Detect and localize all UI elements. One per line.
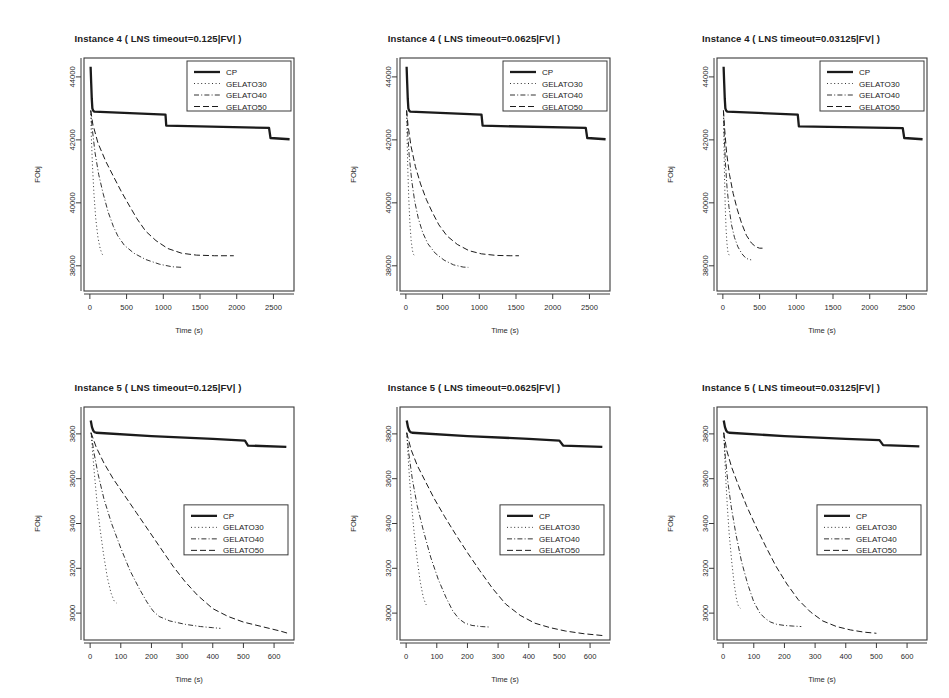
plot-area: 010020030040050060030003200340036003800T… [633, 349, 949, 698]
x-tick-label: 300 [492, 652, 505, 661]
legend-label-gelato50: GELATO50 [223, 546, 264, 555]
y-tick-label: 44000 [68, 66, 77, 87]
x-tick-label: 400 [206, 652, 219, 661]
y-tick-label: 44000 [701, 66, 710, 87]
y-tick-label: 3200 [701, 560, 710, 577]
x-tick-label: 0 [404, 652, 408, 661]
x-tick-label: 500 [436, 303, 449, 312]
y-tick-label: 44000 [384, 66, 393, 87]
legend-label-gelato40: GELATO40 [223, 535, 264, 544]
legend-label-cp: CP [223, 512, 234, 521]
x-tick-label: 1000 [155, 303, 172, 312]
x-tick-label: 400 [839, 652, 852, 661]
x-tick-label: 1000 [471, 303, 488, 312]
x-tick-label: 0 [88, 652, 92, 661]
y-tick-label: 3400 [384, 515, 393, 532]
legend-label-cp: CP [226, 68, 237, 77]
chart-panel-bottom-center: Instance 5 ( LNS timeout=0.0625|FV| )010… [316, 349, 632, 698]
figure-canvas: Instance 4 ( LNS timeout=0.125|FV| )0500… [0, 0, 949, 698]
chart-panel-top-left: Instance 4 ( LNS timeout=0.125|FV| )0500… [0, 0, 316, 349]
legend-label-gelato40: GELATO40 [542, 91, 583, 100]
legend-label-gelato50: GELATO50 [542, 103, 583, 112]
y-tick-label: 38000 [384, 255, 393, 276]
y-tick-label: 40000 [384, 192, 393, 213]
x-tick-label: 600 [268, 652, 281, 661]
x-axis-title: Time (s) [175, 326, 203, 335]
legend-label-gelato30: GELATO30 [539, 523, 580, 532]
y-tick-label: 3200 [384, 560, 393, 577]
y-tick-label: 3000 [701, 605, 710, 622]
x-tick-label: 0 [404, 303, 408, 312]
legend-label-gelato40: GELATO40 [539, 535, 580, 544]
y-tick-label: 3400 [68, 515, 77, 532]
x-tick-label: 600 [584, 652, 597, 661]
chart-panel-bottom-right: Instance 5 ( LNS timeout=0.03125|FV| )01… [633, 349, 949, 698]
legend-label-cp: CP [859, 68, 870, 77]
series-line-gelato50 [723, 111, 762, 249]
series-line-gelato30 [407, 433, 428, 607]
legend-label-gelato30: GELATO30 [856, 523, 897, 532]
x-axis-title: Time (s) [491, 326, 519, 335]
legend-label-gelato30: GELATO30 [226, 80, 267, 89]
legend-label-gelato40: GELATO40 [859, 91, 900, 100]
legend: CPGELATO30GELATO40GELATO50 [187, 61, 291, 112]
x-axis-title: Time (s) [175, 675, 203, 684]
x-tick-label: 100 [747, 652, 760, 661]
series-line-gelato40 [91, 111, 183, 268]
y-tick-label: 38000 [701, 255, 710, 276]
plot-area: 010020030040050060030003200340036003800T… [316, 349, 632, 698]
x-tick-label: 300 [176, 652, 189, 661]
x-tick-label: 100 [430, 652, 443, 661]
x-tick-label: 2000 [861, 303, 878, 312]
series-line-gelato30 [91, 433, 116, 603]
y-tick-label: 42000 [384, 129, 393, 150]
y-axis-title: FObj [349, 515, 358, 532]
series-line-gelato40 [407, 433, 489, 627]
legend-label-gelato30: GELATO30 [859, 80, 900, 89]
legend: CPGELATO30GELATO40GELATO50 [817, 505, 921, 556]
y-tick-label: 3800 [701, 425, 710, 442]
y-axis-title: FObj [349, 166, 358, 183]
y-tick-label: 3000 [68, 605, 77, 622]
plot-area: 010020030040050060030003200340036003800T… [0, 349, 316, 698]
series-line-gelato30 [724, 433, 741, 608]
y-axis-title: FObj [33, 166, 42, 183]
x-tick-label: 500 [237, 652, 250, 661]
x-tick-label: 200 [778, 652, 791, 661]
series-line-cp [724, 420, 920, 446]
y-tick-label: 3400 [701, 515, 710, 532]
x-tick-label: 1500 [508, 303, 525, 312]
x-tick-label: 2000 [228, 303, 245, 312]
y-tick-label: 3600 [701, 470, 710, 487]
legend: CPGELATO30GELATO40GELATO50 [503, 61, 607, 112]
y-axis-title: FObj [666, 515, 675, 532]
chart-panel-top-right: Instance 4 ( LNS timeout=0.03125|FV| )05… [633, 0, 949, 349]
legend-label-gelato50: GELATO50 [539, 546, 580, 555]
x-tick-label: 400 [522, 652, 535, 661]
series-line-gelato50 [91, 111, 234, 256]
series-line-gelato40 [723, 111, 751, 260]
x-axis-title: Time (s) [491, 675, 519, 684]
y-tick-label: 3800 [68, 425, 77, 442]
y-axis-title: FObj [666, 166, 675, 183]
legend-label-cp: CP [542, 68, 553, 77]
x-axis-title: Time (s) [808, 675, 836, 684]
x-tick-label: 1500 [192, 303, 209, 312]
chart-panel-bottom-left: Instance 5 ( LNS timeout=0.125|FV| )0100… [0, 349, 316, 698]
x-tick-label: 1500 [825, 303, 842, 312]
x-tick-label: 0 [721, 652, 725, 661]
y-tick-label: 40000 [68, 192, 77, 213]
x-tick-label: 500 [120, 303, 133, 312]
plot-area: 0500100015002000250038000400004200044000… [316, 0, 632, 349]
x-axis-title: Time (s) [808, 326, 836, 335]
y-axis-title: FObj [33, 515, 42, 532]
legend: CPGELATO30GELATO40GELATO50 [820, 61, 924, 112]
plot-area: 0500100015002000250038000400004200044000… [633, 0, 949, 349]
x-tick-label: 200 [461, 652, 474, 661]
legend-label-gelato50: GELATO50 [226, 103, 267, 112]
x-tick-label: 1000 [788, 303, 805, 312]
x-tick-label: 2500 [265, 303, 282, 312]
y-tick-label: 3800 [384, 425, 393, 442]
x-tick-label: 100 [114, 652, 127, 661]
y-tick-label: 42000 [68, 129, 77, 150]
